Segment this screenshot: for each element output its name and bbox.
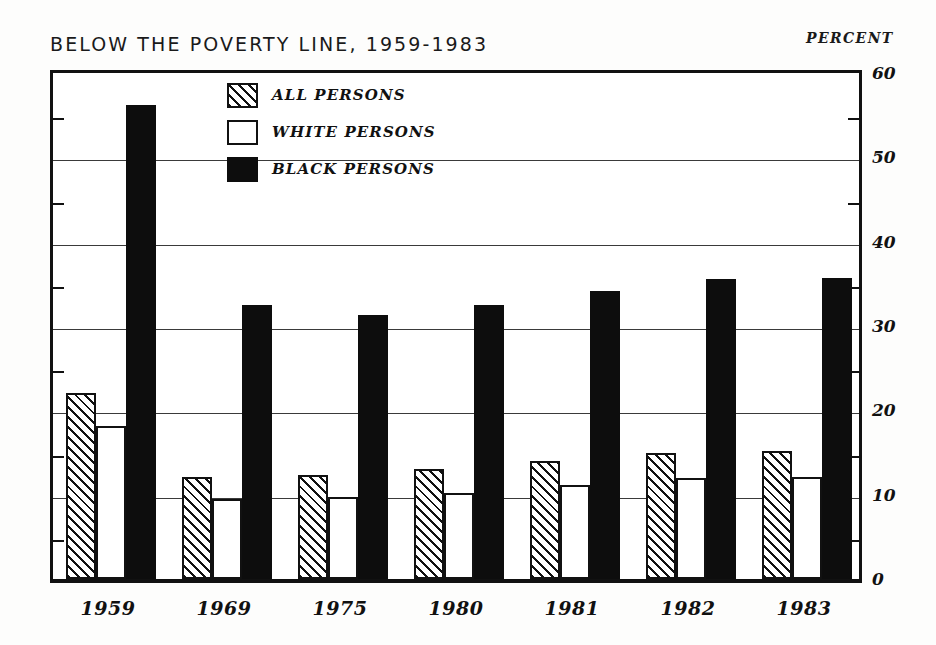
plot-area [50,70,862,583]
legend-label: BLACK PERSONS [272,160,435,178]
bar-1969-white-persons [212,499,242,579]
gridline-20 [53,413,859,414]
minor-tick-left-55 [53,118,64,120]
y-tick-label-30: 30 [872,316,896,336]
bar-1980-all-persons [414,469,444,579]
chart-legend: ALL PERSONSWHITE PERSONSBLACK PERSONS [227,78,436,189]
bar-1981-white-persons [560,485,590,579]
legend-item-all-persons: ALL PERSONS [227,78,436,112]
bar-1980-black-persons [474,305,504,579]
gridline-40 [53,245,859,246]
poverty-line-bar-chart: BELOW THE POVERTY LINE, 1959-1983 PERCEN… [0,0,936,645]
legend-item-black-persons: BLACK PERSONS [227,152,436,186]
bar-1983-white-persons [792,477,822,579]
bar-1959-white-persons [96,426,126,579]
x-tick-label-1981: 1981 [545,597,600,619]
legend-item-white-persons: WHITE PERSONS [227,115,436,149]
legend-swatch-icon-2 [227,157,258,182]
legend-label: ALL PERSONS [272,86,406,104]
bar-1975-all-persons [298,475,328,579]
minor-tick-left-25 [53,371,64,373]
bar-1982-white-persons [676,478,706,579]
x-tick-label-1982: 1982 [661,597,716,619]
minor-tick-right-55 [848,118,859,120]
y-tick-label-60: 60 [872,63,896,83]
legend-swatch-icon-0 [227,83,258,108]
minor-tick-left-45 [53,203,64,205]
minor-tick-left-15 [53,456,64,458]
x-tick-label-1969: 1969 [197,597,252,619]
bar-1969-all-persons [182,477,212,579]
legend-swatch-icon-1 [227,120,258,145]
y-tick-label-20: 20 [872,400,896,420]
bar-1975-white-persons [328,497,358,579]
bar-1980-white-persons [444,493,474,579]
bar-1982-all-persons [646,453,676,580]
y-tick-label-40: 40 [872,232,896,252]
bar-1959-all-persons [66,393,96,579]
bar-1959-black-persons [126,105,156,579]
x-tick-label-1980: 1980 [429,597,484,619]
x-tick-label-1983: 1983 [777,597,832,619]
minor-tick-left-35 [53,287,64,289]
legend-label: WHITE PERSONS [272,123,436,141]
y-axis-title: PERCENT [806,30,894,46]
minor-tick-right-45 [848,203,859,205]
bar-1982-black-persons [706,279,736,579]
bar-1975-black-persons [358,315,388,579]
minor-tick-left-5 [53,540,64,542]
gridline-30 [53,329,859,330]
x-tick-label-1959: 1959 [81,597,136,619]
x-tick-label-1975: 1975 [313,597,368,619]
bar-1981-black-persons [590,291,620,579]
bar-1969-black-persons [242,305,272,579]
gridline-50 [53,160,859,161]
bar-1983-all-persons [762,451,792,579]
y-tick-label-0: 0 [872,569,884,589]
chart-title: BELOW THE POVERTY LINE, 1959-1983 [50,33,488,55]
bar-1981-all-persons [530,461,560,579]
y-tick-label-50: 50 [872,147,896,167]
y-tick-label-10: 10 [872,485,896,505]
bar-1983-black-persons [822,278,852,579]
